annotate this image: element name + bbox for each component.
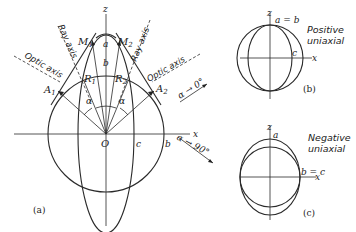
b-top-label: b <box>103 58 109 68</box>
b-right-label: b <box>165 139 171 149</box>
radius-om2 <box>106 40 120 134</box>
b-x-label: x <box>312 53 317 63</box>
c-z-label: z <box>266 122 272 132</box>
c-caption-line1: Negative <box>308 132 351 143</box>
c-top-label: a <box>273 130 278 140</box>
r2-label: R2 <box>114 73 128 86</box>
ray-axis-left-label: Ray axis <box>56 23 80 60</box>
panel-c-label: (c) <box>303 208 315 218</box>
angle-arc-right <box>120 108 128 115</box>
alpha-left-label: α <box>86 96 92 106</box>
optic-axis-right-label: Optic axis <box>145 54 187 84</box>
a1-label: A1 <box>43 84 56 97</box>
panel-a: z x O a b c b M1 M2 R1 R2 A1 A2 α α Ray … <box>14 4 213 232</box>
b-side-label: c <box>292 48 297 58</box>
b-top-label: a = b <box>275 15 300 25</box>
panel-a-label: (a) <box>33 205 45 215</box>
radius-om1 <box>92 40 106 134</box>
panel-b-label: (b) <box>303 84 316 94</box>
limit-0-label: α → 0° <box>176 76 206 100</box>
b-caption-line2: uniaxial <box>307 35 345 46</box>
radius-oa1 <box>58 91 106 134</box>
panel-b: z x a = b c Positive uniaxial (b) <box>237 8 345 99</box>
radius-or1 <box>84 81 106 134</box>
indicatrix-figure: z x O a b c b M1 M2 R1 R2 A1 A2 α α Ray … <box>0 0 356 232</box>
c-side-label: b = c <box>301 167 325 177</box>
panel-c: z x a b = c Negative uniaxial (c) <box>240 122 351 220</box>
x-axis-label: x <box>193 129 198 139</box>
m1-label: M1 <box>77 36 93 49</box>
a2-label: A2 <box>155 83 168 96</box>
b-z-label: z <box>266 8 272 18</box>
radius-or2 <box>106 81 128 134</box>
alpha-right-label: α <box>119 96 125 106</box>
c-caption-line2: uniaxial <box>308 143 346 154</box>
radius-oa2 <box>106 91 154 134</box>
c-label: c <box>136 139 141 149</box>
angle-arc-left <box>84 108 92 115</box>
z-axis-label: z <box>102 4 108 14</box>
b-caption-line1: Positive <box>307 24 344 35</box>
origin-label: O <box>101 138 109 149</box>
a-label: a <box>103 39 108 49</box>
